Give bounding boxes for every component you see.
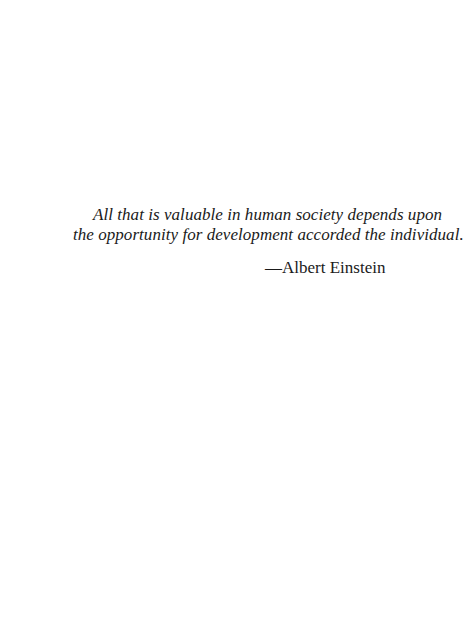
quote-line-2: the opportunity for development accorded…	[73, 225, 464, 245]
quote-attribution: —Albert Einstein	[265, 258, 385, 278]
quote-line-1: All that is valuable in human society de…	[93, 205, 442, 225]
epigraph-page: All that is valuable in human society de…	[0, 0, 475, 643]
